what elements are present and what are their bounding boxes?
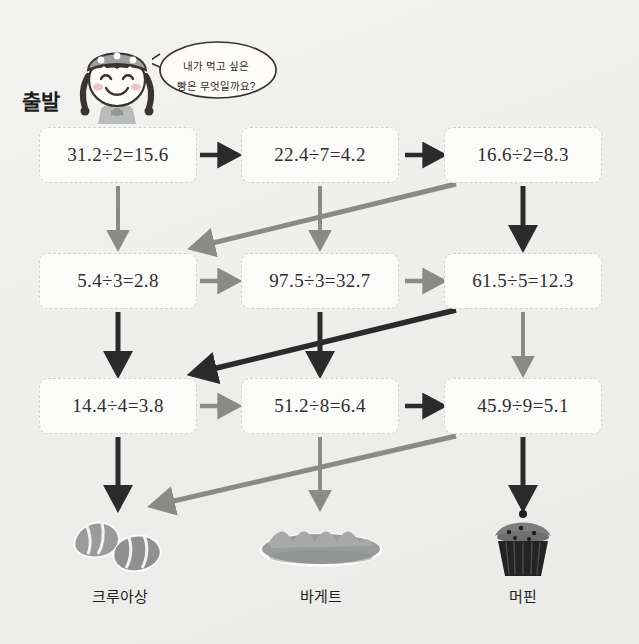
equation-text: 97.5÷3=32.7 <box>269 270 371 292</box>
equation-box-r2c1[interactable]: 5.4÷3=2.8 <box>39 253 197 309</box>
equation-box-r1c1[interactable]: 31.2÷2=15.6 <box>39 127 197 183</box>
equation-box-r2c3[interactable]: 61.5÷5=12.3 <box>444 253 602 309</box>
worksheet-canvas: 출발 내가 먹고 <box>0 0 639 644</box>
equation-text: 16.6÷2=8.3 <box>477 144 569 166</box>
equation-box-r1c3[interactable]: 16.6÷2=8.3 <box>444 127 602 183</box>
answer-label-baguette: 바게트 <box>251 585 391 606</box>
equation-text: 31.2÷2=15.6 <box>67 144 169 166</box>
arrow-d-r1c3-r2c1 <box>192 184 456 248</box>
croissant-icon <box>62 510 182 580</box>
equation-box-r3c3[interactable]: 45.9÷9=5.1 <box>444 378 602 434</box>
equation-text: 22.4÷7=4.2 <box>274 144 366 166</box>
equation-text: 45.9÷9=5.1 <box>477 395 569 417</box>
equation-text: 51.2÷8=6.4 <box>274 395 366 417</box>
equation-text: 61.5÷5=12.3 <box>472 270 574 292</box>
equation-box-r2c2[interactable]: 97.5÷3=32.7 <box>241 253 399 309</box>
arrow-d-r2c3-r3c1 <box>192 310 456 374</box>
speech-bubble: 내가 먹고 싶은 빵은 무엇일까요? <box>152 38 280 106</box>
equation-box-r3c1[interactable]: 14.4÷4=3.8 <box>39 378 197 434</box>
start-label: 출발 <box>22 85 60 115</box>
answer-label-muffin: 머핀 <box>453 585 593 606</box>
speech-bubble-line-2: 빵은 무엇일까요? <box>152 78 280 93</box>
baguette-icon <box>253 516 389 572</box>
equation-box-r3c2[interactable]: 51.2÷8=6.4 <box>241 378 399 434</box>
answer-label-croissant: 크루아상 <box>50 585 190 606</box>
equation-box-r1c2[interactable]: 22.4÷7=4.2 <box>241 127 399 183</box>
arrow-d-r3c3-croissant <box>152 436 456 506</box>
equation-text: 14.4÷4=3.8 <box>72 395 164 417</box>
equation-text: 5.4÷3=2.8 <box>77 270 159 292</box>
muffin-icon <box>489 508 557 580</box>
speech-bubble-line-1: 내가 먹고 싶은 <box>152 58 280 73</box>
